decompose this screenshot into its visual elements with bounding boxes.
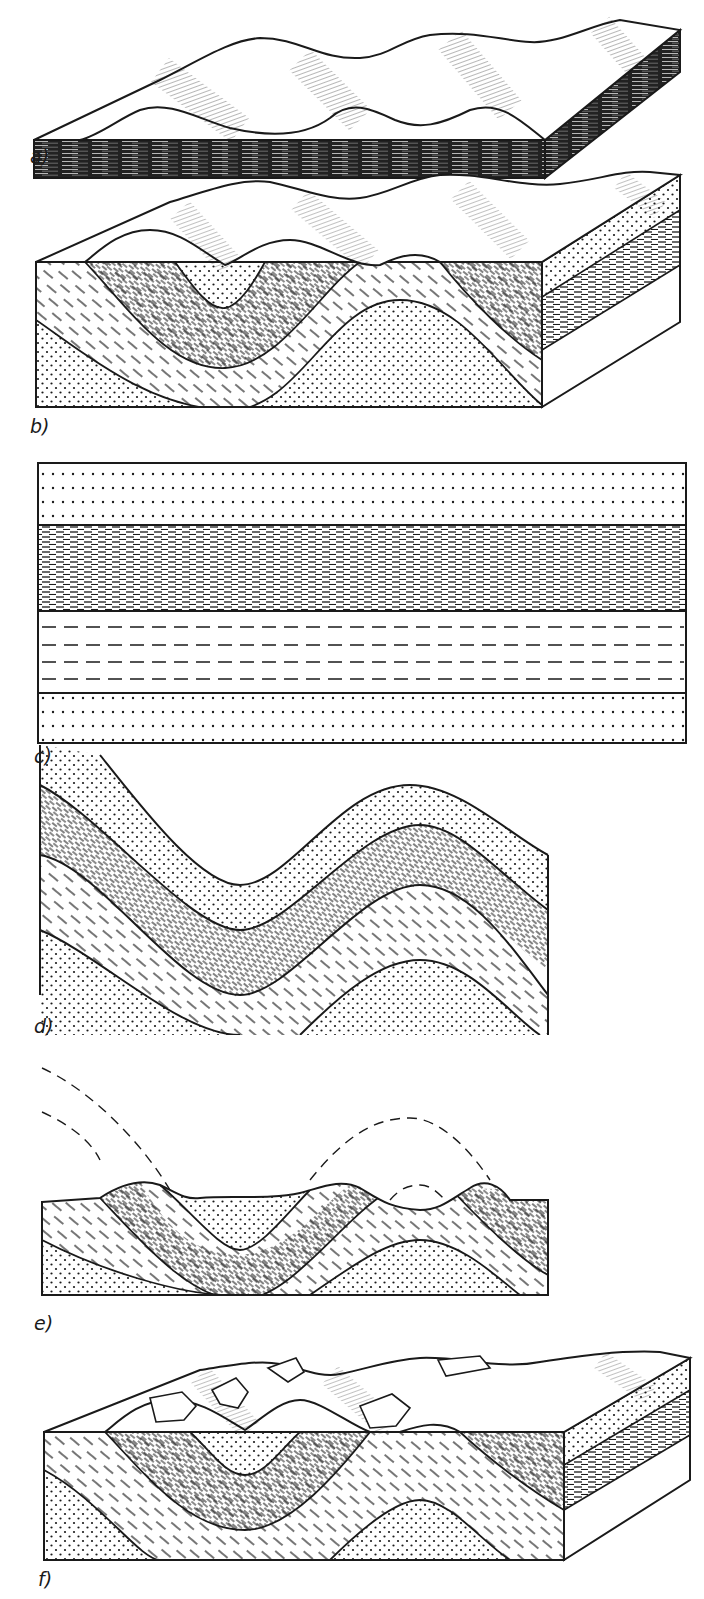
folded-block-diagram [0, 170, 704, 420]
panel-f: f) [0, 1350, 704, 1565]
eroded-block-with-tors [0, 1350, 704, 1565]
panel-b: b) [0, 170, 704, 420]
panel-c: c) [0, 455, 704, 695]
dune-block-diagram [0, 0, 704, 190]
folded-strata-section [0, 745, 704, 1035]
panel-label-f: f) [38, 1568, 52, 1590]
eroded-folded-section [0, 1060, 704, 1300]
panel-label-b: b) [30, 415, 49, 437]
panel-e: e) [0, 1060, 704, 1300]
panel-a: a) [0, 0, 704, 190]
horizontal-strata-section [0, 455, 704, 695]
panel-label-a: a) [30, 145, 49, 167]
panel-d: d) [0, 745, 704, 1035]
panel-label-d: d) [34, 1015, 53, 1037]
panel-label-e: e) [34, 1312, 53, 1334]
